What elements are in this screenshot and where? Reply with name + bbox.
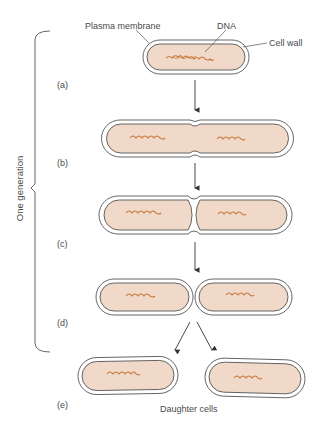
plasma-membrane-label: Plasma membrane: [85, 21, 161, 31]
cell-e: [78, 356, 306, 398]
one-generation-label: One generation: [14, 154, 25, 224]
step-label-d: (d): [57, 318, 68, 328]
arrow-d-e-left: [175, 322, 190, 350]
one-generation-bracket: [31, 31, 50, 352]
step-label-c: (c): [57, 239, 68, 249]
step-label-a: (a): [57, 80, 68, 90]
dna-label: DNA: [217, 21, 236, 31]
cell-d: [96, 279, 292, 315]
step-label-b: (b): [57, 158, 68, 168]
cell-b: [102, 120, 294, 157]
cell-a: [143, 40, 249, 74]
binary-fission-diagram: [0, 0, 321, 428]
step-label-e: (e): [57, 400, 68, 410]
arrow-d-e-right: [197, 322, 212, 350]
cell-wall-label: Cell wall: [269, 38, 303, 48]
daughter-cells-label: Daughter cells: [160, 404, 218, 414]
cell-c: [99, 196, 292, 234]
